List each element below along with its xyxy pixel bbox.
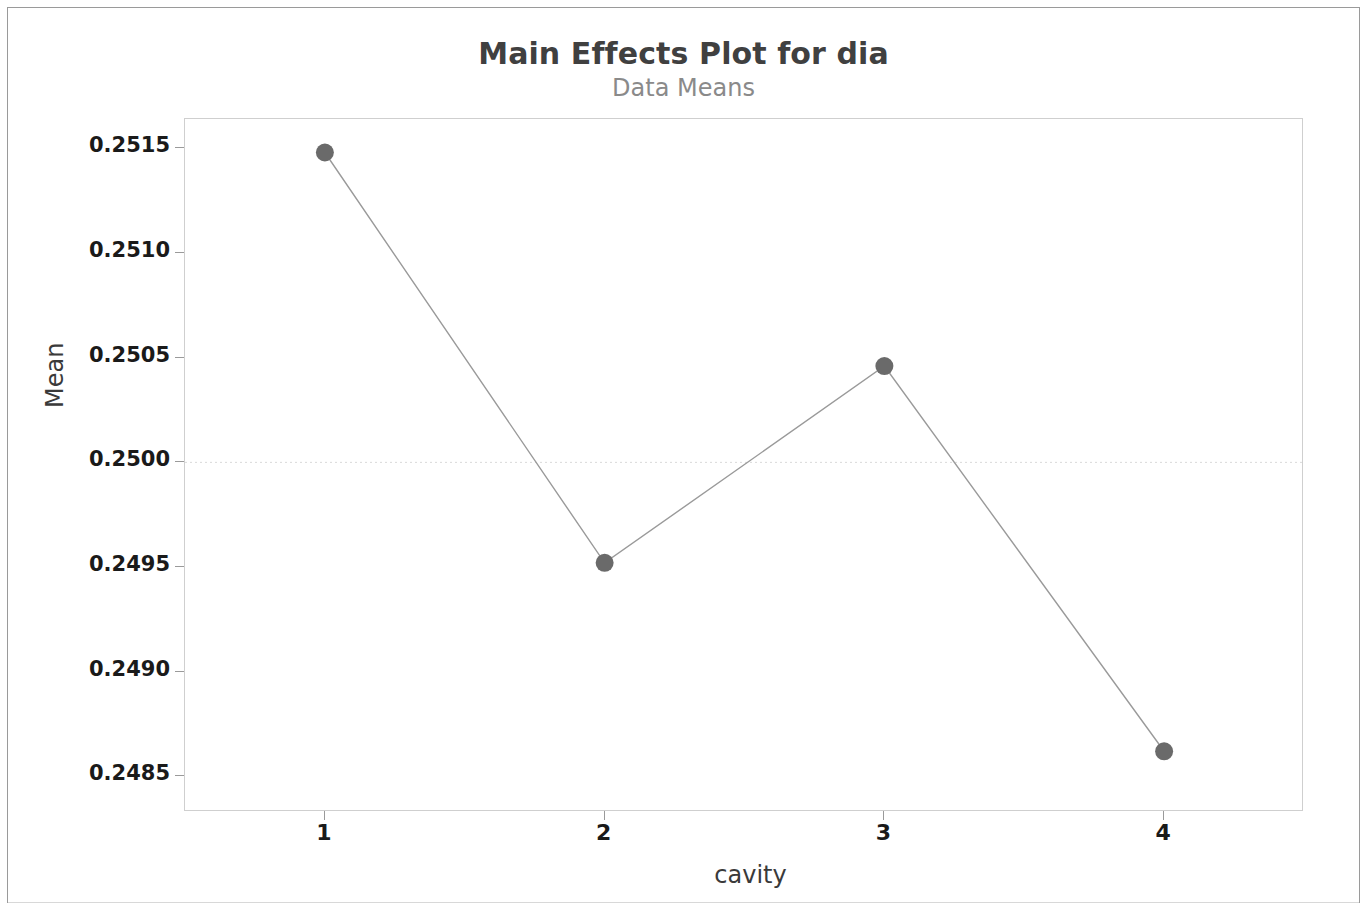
y-axis-tick-label: 0.2490 <box>8 657 170 681</box>
y-axis-tick-mark <box>175 775 184 776</box>
y-axis-tick-label: 0.2505 <box>8 343 170 367</box>
y-axis-tick-label: 0.2500 <box>8 447 170 471</box>
plot-area: 1: 0.251482: 0.249523: 0.250464: 0.24862 <box>184 118 1303 811</box>
y-axis-tick-mark <box>175 671 184 672</box>
main-effects-line-series: 1: 0.251482: 0.249523: 0.250464: 0.24862 <box>185 119 1304 812</box>
x-axis-tick-mark <box>604 811 605 820</box>
y-axis-tick-mark <box>175 252 184 253</box>
screenshot-root: Main Effects Plot for dia Data Means Mea… <box>0 0 1368 911</box>
y-axis-tick-label: 0.2495 <box>8 552 170 576</box>
chart-title: Main Effects Plot for dia <box>8 36 1359 71</box>
chart-figure-frame: Main Effects Plot for dia Data Means Mea… <box>7 7 1360 903</box>
x-axis-tick-mark <box>324 811 325 820</box>
x-axis-tick-mark <box>883 811 884 820</box>
y-axis-tick-mark <box>175 566 184 567</box>
y-axis-tick-label: 0.2510 <box>8 238 170 262</box>
data-point-marker: 4: 0.24862 <box>1155 742 1173 760</box>
data-point-marker: 3: 0.25046 <box>875 357 893 375</box>
chart-subtitle: Data Means <box>8 74 1359 102</box>
y-axis-tick-mark <box>175 357 184 358</box>
data-point-marker: 2: 0.24952 <box>596 554 614 572</box>
x-axis-tick-label: 3 <box>863 820 903 845</box>
series-line <box>325 152 1164 751</box>
y-axis-tick-label: 0.2485 <box>8 761 170 785</box>
x-axis-tick-label: 2 <box>584 820 624 845</box>
y-axis-tick-label: 0.2515 <box>8 133 170 157</box>
x-axis-title: cavity <box>191 861 1310 889</box>
y-axis-tick-mark <box>175 147 184 148</box>
x-axis-tick-label: 4 <box>1143 820 1183 845</box>
data-point-marker: 1: 0.25148 <box>316 143 334 161</box>
x-axis-tick-label: 1 <box>304 820 344 845</box>
y-axis-tick-mark <box>175 461 184 462</box>
x-axis-tick-mark <box>1163 811 1164 820</box>
